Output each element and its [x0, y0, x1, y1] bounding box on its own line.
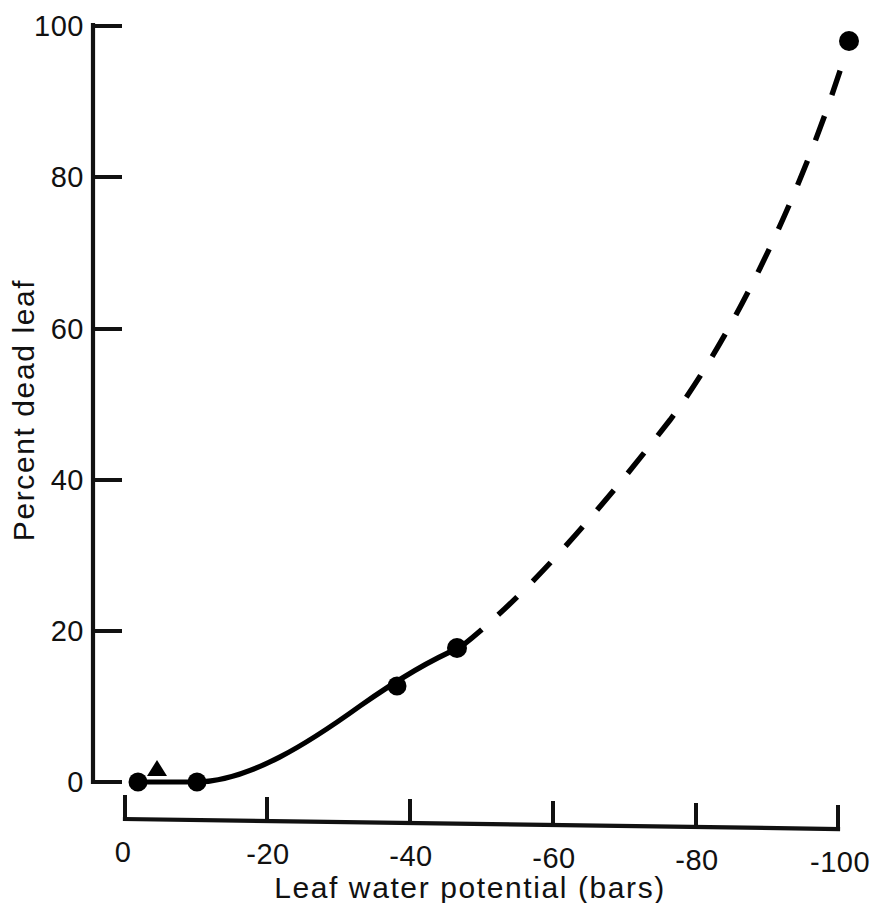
x-tick-label-minus20: -20 — [246, 838, 289, 870]
data-point-circle-2 — [188, 773, 207, 792]
y-tick-label-0: 0 — [67, 766, 84, 798]
fitted-curve — [138, 52, 846, 782]
y-tick-label-100: 100 — [34, 10, 84, 42]
data-point-circle-3 — [388, 677, 407, 696]
x-tick-label-minus100: -100 — [810, 846, 870, 878]
x-axis-line — [125, 819, 838, 829]
x-axis-title: Leaf water potential (bars) — [274, 871, 666, 903]
curve-dashed-segment — [462, 52, 846, 646]
chart-canvas: 0 20 40 60 80 100 Percent dead leaf 0 -2… — [0, 0, 874, 903]
y-tick-label-20: 20 — [51, 615, 84, 647]
x-axis: 0 -20 -40 -60 -80 -100 Leaf water potent… — [115, 795, 870, 903]
data-point-circle-1 — [129, 773, 148, 792]
x-tick-label-minus40: -40 — [389, 840, 432, 872]
data-markers — [129, 31, 860, 792]
data-point-circle-4 — [447, 638, 467, 658]
data-point-triangle-1 — [147, 760, 167, 776]
x-tick-label-0: 0 — [115, 836, 132, 868]
y-tick-label-80: 80 — [51, 161, 84, 193]
y-tick-label-40: 40 — [51, 464, 84, 496]
curve-solid-segment — [138, 648, 459, 782]
chart-figure: 0 20 40 60 80 100 Percent dead leaf 0 -2… — [0, 0, 874, 903]
y-axis: 0 20 40 60 80 100 Percent dead leaf — [7, 10, 122, 798]
y-axis-title: Percent dead leaf — [7, 279, 40, 541]
x-tick-label-minus60: -60 — [532, 842, 575, 874]
y-tick-label-60: 60 — [51, 313, 84, 345]
x-tick-label-minus80: -80 — [675, 844, 718, 876]
data-point-circle-5 — [839, 31, 859, 51]
